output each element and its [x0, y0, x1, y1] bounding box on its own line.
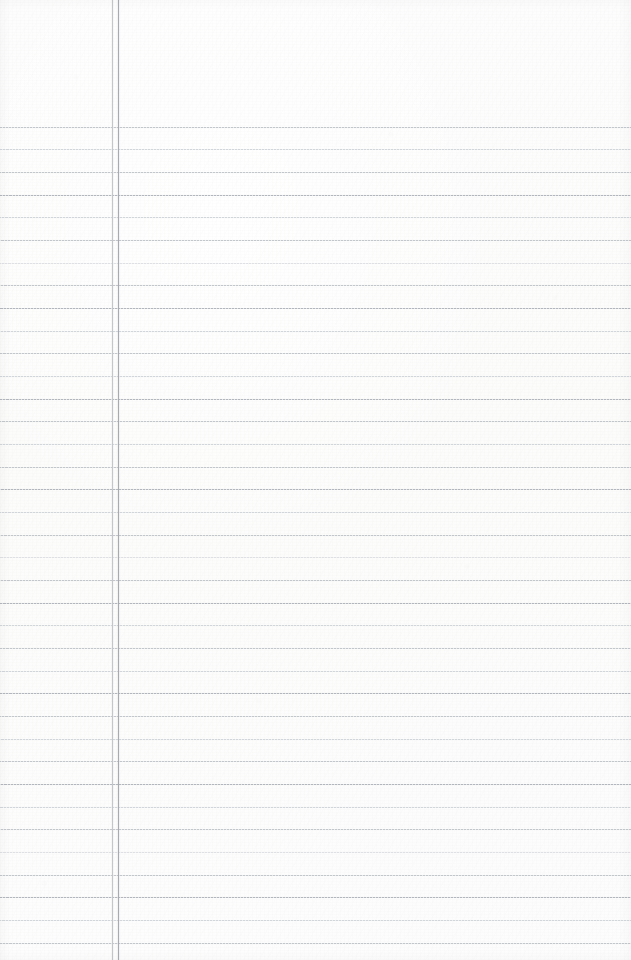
margin-rules-group — [0, 0, 631, 960]
rule-line — [0, 535, 631, 536]
rule-line-ghost — [0, 648, 631, 649]
rule-line-ink — [0, 217, 631, 218]
rule-line — [0, 943, 631, 944]
rule-line — [0, 875, 631, 876]
rule-line — [0, 603, 631, 604]
rule-line — [0, 285, 631, 286]
rule-line-ink — [0, 195, 631, 196]
rule-line — [0, 308, 631, 309]
rule-line-ink — [0, 897, 631, 898]
rule-line — [0, 557, 631, 558]
rule-line-ghost — [0, 943, 631, 944]
rule-line-ink — [0, 716, 631, 717]
rule-line-ink — [0, 512, 631, 513]
rule-line-ghost — [0, 761, 631, 762]
rule-line-ghost — [0, 376, 631, 377]
rule-line — [0, 444, 631, 445]
rule-line-ink — [0, 807, 631, 808]
rule-line — [0, 399, 631, 400]
rule-line — [0, 648, 631, 649]
rule-line-ink — [0, 353, 631, 354]
rule-line-ink — [0, 693, 631, 694]
rule-line-ghost — [0, 920, 631, 921]
rule-line-ink — [0, 580, 631, 581]
rule-line — [0, 512, 631, 513]
rule-line-ghost — [0, 331, 631, 332]
margin-rule-inner — [112, 0, 113, 960]
rule-line-ghost — [0, 240, 631, 241]
rule-line-ghost — [0, 875, 631, 876]
rule-line-ghost — [0, 603, 631, 604]
rule-line-ink — [0, 263, 631, 264]
rule-line-ink — [0, 308, 631, 309]
rule-line-ink — [0, 535, 631, 536]
rule-line-ghost — [0, 512, 631, 513]
rule-line-ink — [0, 285, 631, 286]
rule-line — [0, 716, 631, 717]
rule-line-ghost — [0, 580, 631, 581]
page-header-zone — [0, 0, 631, 127]
rule-line-ghost — [0, 195, 631, 196]
rule-line-ink — [0, 671, 631, 672]
rule-line — [0, 353, 631, 354]
rule-line — [0, 149, 631, 150]
rule-line-ink — [0, 489, 631, 490]
rule-line-ink — [0, 603, 631, 604]
rule-line-ink — [0, 376, 631, 377]
rule-line-ink — [0, 172, 631, 173]
rule-line-ghost — [0, 467, 631, 468]
scan-edge-shading — [0, 0, 631, 960]
rule-line-ghost — [0, 217, 631, 218]
rule-line — [0, 761, 631, 762]
rule-line — [0, 331, 631, 332]
rule-line-ink — [0, 240, 631, 241]
rule-line-ghost — [0, 127, 631, 128]
rule-line-ink — [0, 852, 631, 853]
rule-line-ink — [0, 331, 631, 332]
rule-line — [0, 852, 631, 853]
rule-line — [0, 489, 631, 490]
rule-line — [0, 625, 631, 626]
rule-line — [0, 421, 631, 422]
rule-line — [0, 784, 631, 785]
rule-line-ghost — [0, 149, 631, 150]
rule-line — [0, 829, 631, 830]
margin-rule-outer — [118, 0, 119, 960]
rule-line-ink — [0, 648, 631, 649]
rule-line-ghost — [0, 421, 631, 422]
rule-line-ink — [0, 149, 631, 150]
rule-line-ghost — [0, 399, 631, 400]
rule-line-ghost — [0, 784, 631, 785]
rule-line — [0, 807, 631, 808]
rule-line-ghost — [0, 671, 631, 672]
rule-line-ghost — [0, 829, 631, 830]
rule-line — [0, 693, 631, 694]
rule-line — [0, 671, 631, 672]
rule-line — [0, 897, 631, 898]
rule-line-ghost — [0, 807, 631, 808]
rule-line-ink — [0, 467, 631, 468]
rule-line — [0, 580, 631, 581]
rule-line-ink — [0, 444, 631, 445]
rule-line — [0, 195, 631, 196]
rule-line-ghost — [0, 716, 631, 717]
rule-line-ghost — [0, 263, 631, 264]
rule-line-ink — [0, 943, 631, 944]
rule-line-ink — [0, 421, 631, 422]
rule-line-ink — [0, 784, 631, 785]
rule-line-ink — [0, 829, 631, 830]
rule-line — [0, 127, 631, 128]
rule-line-ghost — [0, 693, 631, 694]
paper-grain-texture — [0, 0, 631, 960]
rule-line-ghost — [0, 444, 631, 445]
rule-line-ink — [0, 399, 631, 400]
rule-line-ghost — [0, 353, 631, 354]
rule-line-ghost — [0, 308, 631, 309]
rule-line-ghost — [0, 535, 631, 536]
rule-line-ghost — [0, 489, 631, 490]
rule-line-ink — [0, 739, 631, 740]
rule-line-ghost — [0, 172, 631, 173]
paper-mottle-texture — [0, 0, 631, 960]
rule-line-ink — [0, 625, 631, 626]
rule-line-ghost — [0, 897, 631, 898]
